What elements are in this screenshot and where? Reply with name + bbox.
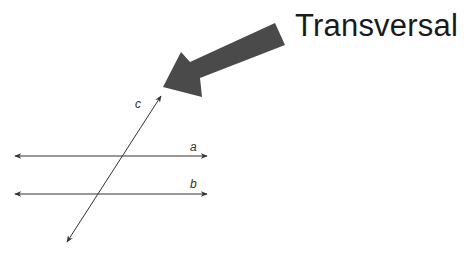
- label-a: a: [190, 140, 197, 154]
- line-c-transversal: [67, 96, 161, 242]
- pointer-arrow-icon: [163, 23, 285, 97]
- label-b: b: [190, 177, 197, 191]
- transversal-diagram: c a b Transversal: [0, 0, 472, 255]
- label-c: c: [135, 97, 141, 111]
- diagram-title: Transversal: [295, 8, 458, 44]
